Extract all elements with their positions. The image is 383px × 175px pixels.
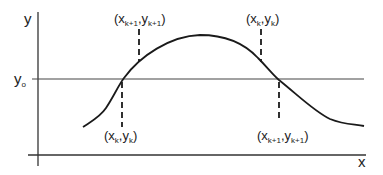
function-curve: [83, 35, 364, 127]
y0-label: yo: [14, 70, 27, 89]
y-axis-label: y: [24, 10, 32, 27]
point-label-upper-right: (xk,yk): [246, 11, 279, 28]
diagram-canvas: y x yo (xk+1,yk+1) (xk,yk) (xk,yk) (xk+1…: [0, 0, 383, 175]
point-label-upper-left: (xk+1,yk+1): [114, 11, 166, 28]
point-label-lower-right: (xk+1,yk+1): [257, 128, 309, 145]
x-axis-label: x: [358, 153, 366, 170]
point-label-lower-left: (xk,yk): [104, 128, 137, 145]
